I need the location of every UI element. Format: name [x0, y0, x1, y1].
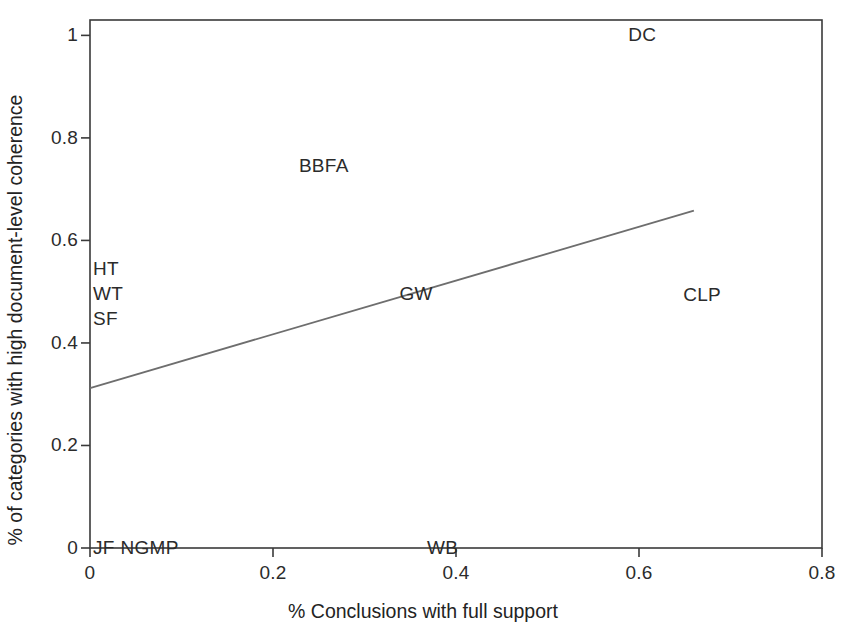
scatter-chart-figure: 00.20.40.60.8 00.20.40.60.81 DCBBFAHTWTS… [0, 0, 846, 640]
y-tick-label: 0.8 [30, 127, 78, 149]
data-point-label: BBFA [299, 155, 349, 177]
data-point-label: NGMP [120, 537, 178, 559]
data-point-label: DC [628, 24, 656, 46]
data-point-label: JF [93, 537, 115, 559]
x-tick-label: 0.8 [808, 562, 835, 584]
x-tick-label: 0.4 [442, 562, 469, 584]
x-tick-label: 0.2 [259, 562, 286, 584]
y-tick-label: 0.6 [30, 229, 78, 251]
y-axis-title: % of categories with high document-level… [0, 0, 30, 640]
x-tick-label: 0 [85, 562, 96, 584]
y-tick-label: 0.4 [30, 332, 78, 354]
y-tick-label: 0 [30, 537, 78, 559]
x-axis-title: % Conclusions with full support [0, 600, 846, 623]
data-point-label: WT [93, 283, 123, 305]
data-point-label: HT [93, 258, 119, 280]
data-point-label: CLP [683, 284, 721, 306]
data-point-label: WB [427, 537, 458, 559]
data-point-label: GW [400, 283, 433, 305]
y-tick-label: 1 [30, 24, 78, 46]
data-point-label: SF [93, 308, 118, 330]
y-tick-label: 0.2 [30, 434, 78, 456]
x-tick-label: 0.6 [625, 562, 652, 584]
